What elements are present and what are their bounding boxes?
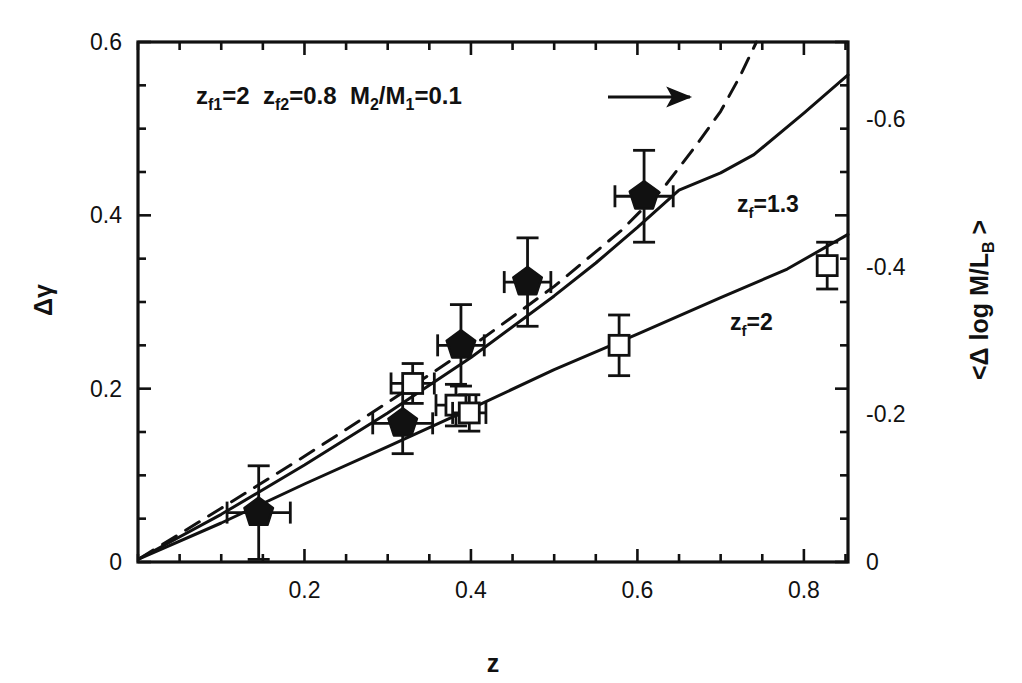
x-tick-label: 0.8: [788, 577, 820, 603]
y-tick-label-left: 0.2: [90, 376, 122, 402]
y-tick-label-left: 0.4: [90, 202, 122, 228]
x-tick-label: 0.2: [288, 577, 320, 603]
curve-label-zf13: zf=1.3: [737, 191, 799, 221]
curve-label-zf13-text: zf=1.3: [737, 191, 799, 221]
y-tick-label-right: -0.6: [866, 106, 906, 132]
curve-label-zf2-text: zf=2: [730, 309, 773, 339]
x-tick-label: 0.6: [621, 577, 653, 603]
marker-square-open: [609, 335, 629, 355]
y-axis-title-left: Δγ: [29, 284, 57, 316]
marker-square-open: [817, 256, 837, 276]
y-tick-label-right: -0.2: [866, 401, 906, 427]
canvas-background: [0, 0, 1022, 683]
marker-square-open: [403, 373, 423, 393]
y-tick-label-left: 0.6: [90, 29, 122, 55]
scatter-plot-svg: 0.20.40.60.800.20.40.60-0.2-0.4-0.6 z Δγ…: [0, 0, 1022, 683]
y-tick-label-right: -0.4: [866, 254, 906, 280]
chart-figure: 0.20.40.60.800.20.40.60-0.2-0.4-0.6 z Δγ…: [0, 0, 1022, 683]
x-axis-title: z: [487, 649, 500, 677]
y-tick-label-right: 0: [866, 549, 879, 575]
x-tick-label: 0.4: [455, 577, 487, 603]
curve-label-zf2: zf=2: [730, 309, 773, 339]
y-tick-label-left: 0: [109, 549, 122, 575]
marker-square-open: [459, 403, 479, 423]
merger-annotation-text: zf1=2 zf2=0.8 M2/M1=0.1: [196, 82, 462, 113]
x-axis-title-text: z: [487, 649, 500, 677]
y-axis-title-left-text: Δγ: [29, 284, 57, 316]
